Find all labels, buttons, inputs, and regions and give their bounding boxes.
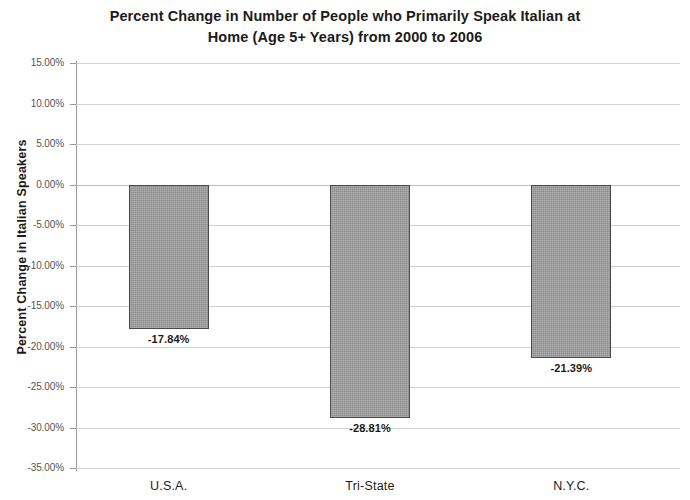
bar-n-y-c[interactable] [531, 185, 611, 358]
y-axis-tick-label: 10.00% [2, 98, 64, 109]
y-axis-tick-label: 0.00% [2, 179, 64, 190]
y-axis-tick-label: -25.00% [2, 381, 64, 392]
x-axis-category-label: Tri-State [300, 479, 440, 493]
y-axis-tick-label: -30.00% [2, 422, 64, 433]
bar-value-label: -28.81% [315, 422, 425, 434]
y-axis-tick-label: 15.00% [2, 57, 64, 68]
y-axis-tick-mark [70, 306, 76, 307]
y-axis-tick-label: 5.00% [2, 138, 64, 149]
y-axis-tick-mark [70, 63, 76, 64]
x-axis-category-label: N.Y.C. [501, 479, 641, 493]
y-axis-tick-label: -10.00% [2, 260, 64, 271]
plot-area [76, 63, 680, 468]
gridline [76, 63, 680, 64]
y-axis-tick-label: -5.00% [2, 219, 64, 230]
bar-value-label: -21.39% [516, 362, 626, 374]
y-axis-title: Percent Change in Italian Speakers [15, 117, 29, 377]
y-axis-tick-mark [70, 266, 76, 267]
bar-tri-state[interactable] [330, 185, 410, 418]
bar-u-s-a[interactable] [129, 185, 209, 330]
bar-value-label: -17.84% [114, 333, 224, 345]
y-axis-tick-mark [70, 104, 76, 105]
y-axis-tick-mark [70, 347, 76, 348]
y-axis-tick-label: -15.00% [2, 300, 64, 311]
y-axis-tick-mark [70, 185, 76, 186]
chart-title: Percent Change in Number of People who P… [60, 6, 630, 48]
y-axis-tick-mark [70, 468, 76, 469]
y-axis-tick-label: -35.00% [2, 462, 64, 473]
chart-title-line-1: Percent Change in Number of People who P… [110, 8, 581, 24]
y-axis-tick-mark [70, 387, 76, 388]
y-axis-tick-mark [70, 144, 76, 145]
y-axis-tick-label: -20.00% [2, 341, 64, 352]
x-axis-category-label: U.S.A. [99, 479, 239, 493]
y-axis-tick-mark [70, 225, 76, 226]
y-axis-tick-mark [70, 428, 76, 429]
gridline [76, 144, 680, 145]
chart-title-line-2: Home (Age 5+ Years) from 2000 to 2006 [60, 27, 630, 48]
gridline [76, 104, 680, 105]
gridline [76, 468, 680, 469]
